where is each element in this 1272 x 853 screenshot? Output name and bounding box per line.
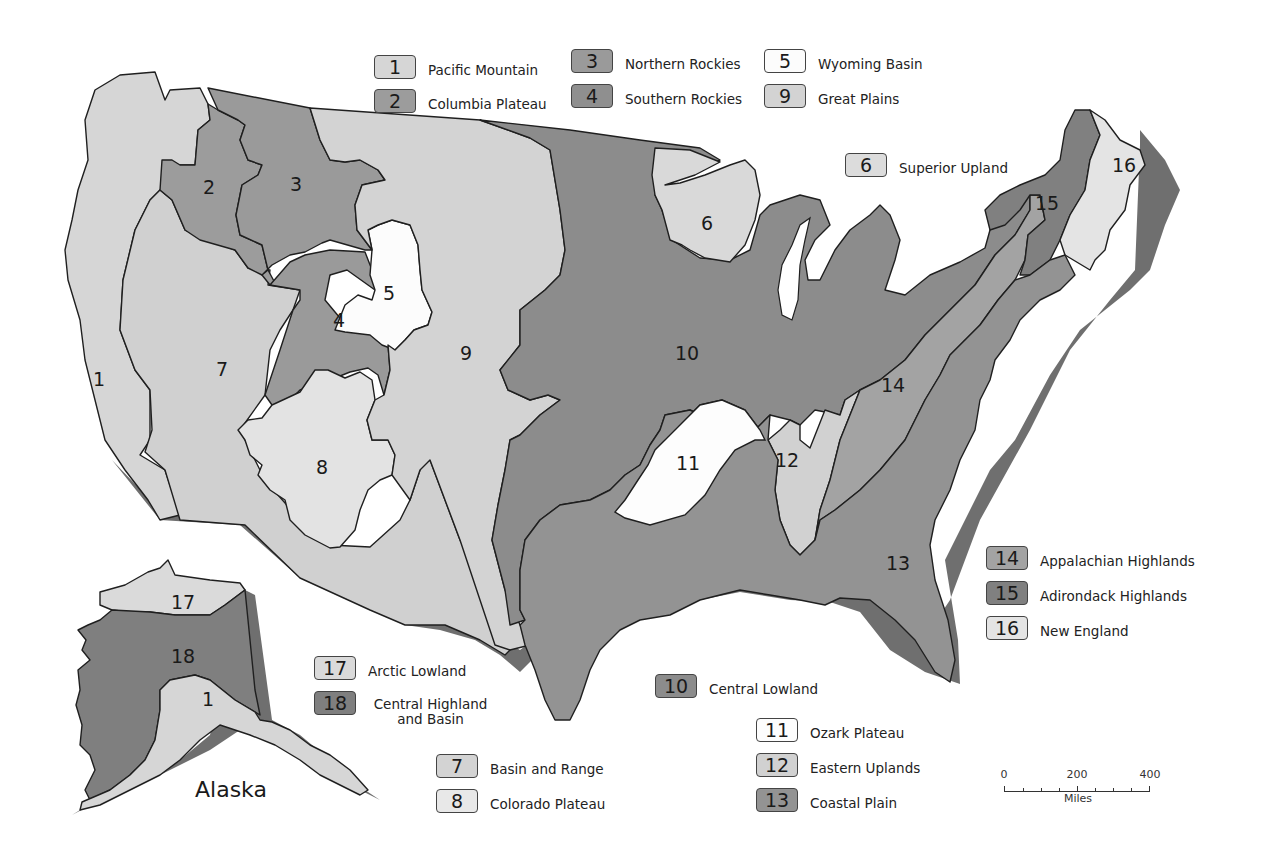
region-number-label: 8: [316, 456, 328, 478]
legend-swatch: 6: [845, 153, 887, 177]
legend-swatch: 14: [986, 546, 1028, 570]
region-number-label: 4: [333, 309, 345, 331]
legend-item: 8Colorado Plateau: [436, 788, 605, 814]
legend-label: Great Plains: [818, 91, 899, 107]
legend-item: 3Northern Rockies: [571, 48, 741, 74]
legend-item: 6Superior Upland: [845, 152, 1008, 178]
region-number-label: 12: [775, 449, 799, 471]
region-number-label: 16: [1112, 154, 1136, 176]
legend-label: Arctic Lowland: [368, 663, 466, 679]
legend-item: 4Southern Rockies: [571, 83, 742, 109]
scale-tick-0: 0: [1001, 768, 1008, 781]
legend-item: 7Basin and Range: [436, 753, 604, 779]
legend-item: 13Coastal Plain: [756, 787, 897, 813]
legend-swatch: 7: [436, 754, 478, 778]
region-number-label: 13: [886, 552, 910, 574]
region-number-label: 2: [203, 176, 215, 198]
scale-bar: 0 200 400 Miles: [998, 768, 1158, 808]
region-number-label: 3: [290, 173, 302, 195]
legend-swatch: 16: [986, 616, 1028, 640]
legend-item: 1Pacific Mountain: [374, 54, 538, 80]
legend-item: 5Wyoming Basin: [764, 48, 923, 74]
legend-swatch: 18: [314, 691, 356, 715]
legend-swatch: 3: [571, 49, 613, 73]
legend-label: New England: [1040, 623, 1129, 639]
legend-label: Colorado Plateau: [490, 796, 605, 812]
legend-label: Adirondack Highlands: [1040, 588, 1187, 604]
alaska-label: Alaska: [195, 777, 267, 802]
legend-item: 2Columbia Plateau: [374, 88, 547, 114]
region-number-label: 18: [171, 645, 195, 667]
region-number-label: 5: [383, 282, 395, 304]
legend-item: 11Ozark Plateau: [756, 717, 904, 743]
legend-item: 9Great Plains: [764, 83, 899, 109]
legend-swatch: 17: [314, 656, 356, 680]
legend-label: Superior Upland: [899, 160, 1008, 176]
legend-swatch: 12: [756, 753, 798, 777]
legend-swatch: 9: [764, 84, 806, 108]
scale-unit: Miles: [998, 792, 1158, 805]
legend-label: Eastern Uplands: [810, 760, 920, 776]
legend-item: 12Eastern Uplands: [756, 752, 920, 778]
region-number-label: 6: [701, 212, 713, 234]
legend-label: Central Lowland: [709, 681, 818, 697]
legend-item: 10Central Lowland: [655, 673, 818, 699]
legend-label: Coastal Plain: [810, 795, 897, 811]
legend-swatch: 1: [374, 55, 416, 79]
legend-item: 17Arctic Lowland: [314, 655, 466, 681]
region-number-label: 9: [460, 342, 472, 364]
region-number-label: 7: [216, 358, 228, 380]
legend-label: Southern Rockies: [625, 91, 742, 107]
legend-item: 14Appalachian Highlands: [986, 545, 1195, 571]
legend-label: Columbia Plateau: [428, 96, 547, 112]
legend-item: 15Adirondack Highlands: [986, 580, 1187, 606]
region-number-label: 14: [881, 374, 905, 396]
legend-label: Central Highland and Basin: [368, 697, 493, 727]
scale-tick-400: 400: [1140, 768, 1161, 781]
legend-swatch: 4: [571, 84, 613, 108]
legend-swatch: 11: [756, 718, 798, 742]
legend-label: Pacific Mountain: [428, 62, 538, 78]
legend-label: Basin and Range: [490, 761, 604, 777]
legend-swatch: 15: [986, 581, 1028, 605]
scale-tick-200: 200: [1067, 768, 1088, 781]
legend-swatch: 10: [655, 674, 697, 698]
legend-swatch: 5: [764, 49, 806, 73]
legend-label: Ozark Plateau: [810, 725, 904, 741]
region-number-label: 17: [171, 591, 195, 613]
region-number-label: 1: [93, 368, 105, 390]
legend-swatch: 2: [374, 89, 416, 113]
legend-item: 18Central Highland and Basin: [314, 690, 493, 716]
region-number-label: 11: [676, 452, 700, 474]
region-number-label: 1: [202, 688, 214, 710]
legend-label: Appalachian Highlands: [1040, 553, 1195, 569]
legend-label: Wyoming Basin: [818, 56, 923, 72]
physiographic-map: 1234567891011121314151617181 Alaska: [0, 0, 1272, 853]
legend-label: Northern Rockies: [625, 56, 741, 72]
region-number-label: 10: [675, 342, 699, 364]
legend-item: 16New England: [986, 615, 1129, 641]
region-number-label: 15: [1035, 192, 1059, 214]
legend-swatch: 13: [756, 788, 798, 812]
legend-swatch: 8: [436, 789, 478, 813]
